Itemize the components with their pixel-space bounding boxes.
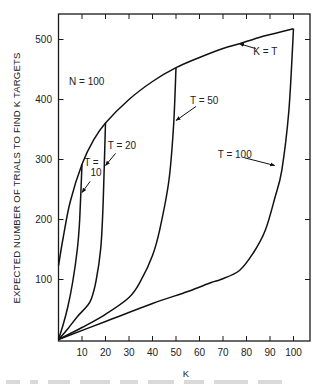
series-t-50 [59, 68, 177, 340]
y-axis-ticks: 100200300400500 [35, 34, 310, 285]
annotation-label: T = 50 [190, 95, 219, 106]
y-tick-label: 100 [35, 274, 52, 285]
y-axis-title: EXPECTED NUMBER OF TRIALS TO FIND K TARG… [11, 52, 22, 303]
annotations-layer: N = 100K = TT = 20T =10T = 50T = 100 [69, 44, 277, 193]
annotation-label: 10 [91, 167, 103, 178]
y-tick-label: 400 [35, 94, 52, 105]
x-tick-label: 50 [170, 347, 182, 358]
x-axis-ticks: 102030405060708090100 [76, 14, 302, 358]
annotation-label: T = 20 [108, 140, 137, 151]
annotation-label: K = T [253, 46, 277, 57]
chart-canvas: 102030405060708090100 100200300400500 N … [0, 0, 321, 387]
annotation-arrow [176, 106, 196, 120]
x-tick-label: 40 [147, 347, 159, 358]
x-axis-title: K [183, 368, 190, 379]
y-tick-label: 300 [35, 154, 52, 165]
x-tick-label: 90 [264, 347, 276, 358]
x-tick-label: 20 [100, 347, 112, 358]
y-tick-label: 500 [35, 34, 52, 45]
annotation-label: T = [84, 157, 99, 168]
annotation-label: N = 100 [69, 76, 105, 87]
annotation-arrow [244, 158, 274, 166]
x-tick-label: 70 [217, 347, 229, 358]
x-tick-label: 80 [241, 347, 253, 358]
series-t-10 [59, 164, 83, 339]
series-t-20 [59, 123, 106, 340]
x-tick-label: 100 [285, 347, 302, 358]
y-tick-label: 200 [35, 214, 52, 225]
series-k-t [59, 29, 294, 266]
caption-fragment [6, 380, 306, 387]
x-tick-label: 30 [123, 347, 135, 358]
x-tick-label: 10 [76, 347, 88, 358]
x-tick-label: 60 [194, 347, 206, 358]
annotation-arrow [106, 153, 116, 165]
annotation-arrow [82, 181, 90, 192]
